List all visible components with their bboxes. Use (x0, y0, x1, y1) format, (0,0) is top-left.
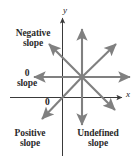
undefined-slope-label: Undefined slope (62, 128, 134, 148)
positive-slope-label-line1: Positive (1, 128, 59, 138)
ray-down-right-negative-slope (82, 77, 115, 110)
undefined-slope-label-line2: slope (62, 138, 134, 148)
positive-slope-label: Positive slope (1, 128, 59, 148)
negative-slope-label: Negative slope (2, 28, 64, 48)
slope-diagram: y x 0 Negative slope 0 slope Positive sl… (0, 0, 138, 158)
positive-slope-label-line2: slope (1, 138, 59, 148)
ray-up-right-positive-slope (82, 44, 116, 77)
ray-up-left-negative-slope (49, 44, 82, 77)
negative-slope-label-line1: Negative (2, 28, 64, 38)
undefined-slope-label-line1: Undefined (62, 128, 134, 138)
zero-slope-label-line1: 0 (1, 68, 53, 78)
x-axis-label: x (126, 90, 130, 99)
negative-slope-label-line2: slope (2, 38, 64, 48)
zero-slope-label-line2: slope (1, 78, 53, 88)
origin-label: 0 (45, 98, 50, 108)
zero-slope-label: 0 slope (1, 68, 53, 88)
y-axis-label: y (63, 6, 67, 15)
